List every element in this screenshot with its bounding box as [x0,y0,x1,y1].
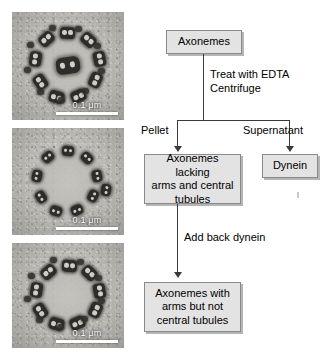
scale-bar-line [56,340,118,343]
dynein-arm [37,89,44,95]
scale-bar-label: 0.1 μm [56,215,118,225]
flow-edge-pellet [177,120,178,148]
node-line-2: arms but not [162,300,223,314]
micrograph-intact-axoneme: 0.1 μm [12,12,124,120]
node-line-1: Axonemes lacking [149,152,236,179]
scale-bar-group: 0.1 μm [56,100,118,115]
edge-label-supernatant: Supernatant [243,124,303,138]
figure-root: 0.1 μm 0.1 μm [0,0,336,355]
dynein-arm [24,296,31,302]
dynein-arm [98,68,105,74]
dynein-arm [98,298,105,304]
node-line-3: tubules [175,193,210,207]
flowchart-node-axonemes: Axonemes [166,30,242,54]
flowchart-node-dynein-label: Dynein [273,159,307,173]
outer-doublet [92,282,107,299]
outer-doublet [91,169,103,183]
flow-arrowhead-add-back [174,272,182,278]
outer-doublet [60,27,75,40]
edge-label-treat-line1: Treat with EDTA [210,68,289,82]
node-line-2: arms and central [152,179,234,193]
outer-doublet [62,146,75,157]
dynein-arm [49,25,56,31]
flow-split-bus [177,120,289,121]
node-line-3: central tubules [157,314,229,328]
flowchart-node-axonemes-with-arms: Axonemes with arms but not central tubul… [144,282,241,332]
scale-bar-line [56,227,118,230]
dynein-arm [50,257,57,263]
dynein-arm [95,275,102,281]
flowchart-node-axonemes-label: Axonemes [178,35,230,49]
flow-arrowhead-supernatant [286,146,294,152]
scale-bar-line [56,112,118,115]
dynein-arm [24,67,31,73]
micrograph-stripped-axoneme: 0.1 μm [12,128,124,235]
scale-bar-group: 0.1 μm [56,328,118,343]
scale-bar-label: 0.1 μm [56,328,118,338]
dynein-arm [27,42,34,48]
outer-doublet [62,260,78,273]
flow-edge-treatment [203,54,204,120]
dynein-arm [28,273,35,279]
dynein-arm [81,316,88,322]
node-line-1: Axonemes with [155,287,230,301]
flow-edge-add-back [177,204,178,274]
scan-artifact-speck [297,192,299,198]
edge-label-pellet: Pellet [141,124,169,138]
scale-bar-group: 0.1 μm [56,215,118,230]
dynein-arm [36,317,43,323]
micrograph-reconstituted-axoneme: 0.1 μm [12,243,124,348]
dynein-arm [82,88,89,94]
edge-label-treat-line2: Centrifuge [210,82,261,96]
dynein-arm [94,43,101,49]
flowchart-node-dynein: Dynein [262,154,318,178]
edge-label-add-back: Add back dynein [184,231,265,245]
dynein-arm [75,26,82,32]
outer-doublet [29,51,43,68]
flowchart-node-axonemes-lacking: Axonemes lacking arms and central tubule… [144,154,241,204]
dynein-arm [77,259,84,265]
scale-bar-label: 0.1 μm [56,100,118,110]
